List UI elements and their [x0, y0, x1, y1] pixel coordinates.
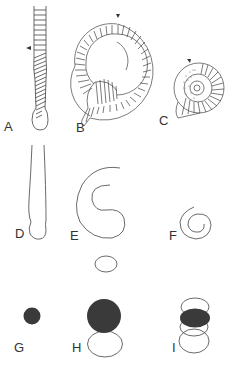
panel-h-upper-ellipse	[95, 256, 117, 272]
label-a: A	[4, 119, 13, 134]
panel-b-coiled-shell	[71, 24, 153, 126]
panel-a-transverse-ribs	[34, 10, 46, 50]
panel-g-dark-section	[24, 308, 41, 325]
panel-b-ribs	[75, 24, 151, 122]
arrow-icon	[116, 14, 120, 18]
panel-h-dark-section	[87, 299, 121, 333]
panel-c-spiral-shell	[174, 63, 224, 118]
arrow-icon	[26, 46, 31, 50]
label-e: E	[70, 228, 79, 243]
panel-f-spiral-outline	[180, 207, 211, 239]
label-h: H	[72, 340, 81, 355]
panel-a-tube	[32, 6, 48, 130]
arrow-icon	[187, 59, 191, 63]
label-d: D	[15, 226, 24, 241]
panel-e-spiral-outline	[76, 167, 124, 238]
panel-d-tube-outline	[29, 145, 46, 239]
label-c: C	[159, 113, 168, 128]
label-g: G	[14, 340, 24, 355]
label-b: B	[76, 120, 85, 135]
label-i: I	[172, 340, 176, 355]
label-f: F	[169, 228, 177, 243]
panel-i-dark-section	[180, 309, 210, 328]
figure-canvas: A	[0, 0, 240, 369]
panel-h-lower-ellipse	[88, 331, 123, 357]
